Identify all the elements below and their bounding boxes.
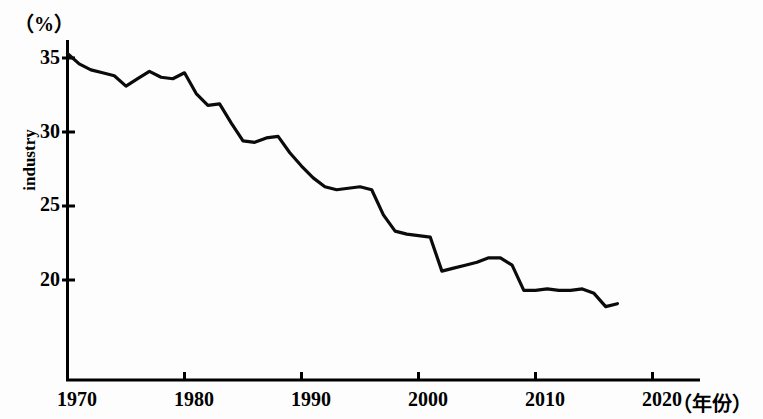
plot-area [0, 0, 763, 419]
industry-share-line-chart: （%） industry 35 30 25 20 1970 1980 1990 … [0, 0, 763, 419]
series-line-industry [68, 54, 618, 307]
